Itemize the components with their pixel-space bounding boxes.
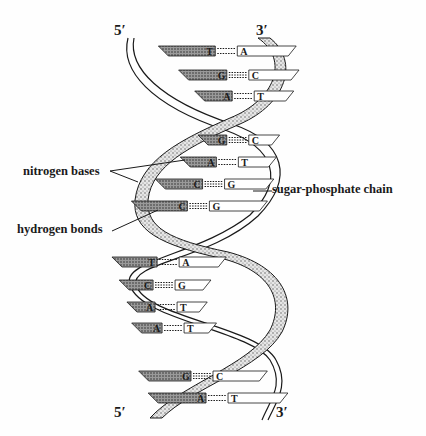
end-label-top-5prime: 5′ — [114, 22, 126, 39]
base-letter-right: T — [257, 91, 264, 102]
callout-nitrogen-bases: nitrogen bases — [23, 164, 100, 179]
base-letter-left: A — [197, 393, 205, 404]
dna-diagram: TAGCATGCATCGCGTACGATATGCAT 5′ 3′ 5′ 3′ n… — [0, 0, 426, 436]
base-letter-left: A — [207, 157, 215, 168]
base-pair: AT — [132, 323, 217, 334]
base-letter-right: T — [180, 302, 187, 313]
base-letter-right: C — [252, 70, 259, 81]
base-letter-left: G — [182, 371, 190, 382]
base-pair: TA — [112, 257, 226, 268]
base-pair: AT — [195, 91, 294, 102]
base-letter-left: C — [178, 201, 185, 212]
base-pair: GC — [139, 371, 268, 382]
base-letter-left: C — [194, 179, 201, 190]
base-letter-left: T — [206, 46, 213, 57]
base-pair: TA — [158, 46, 296, 57]
base-letter-left: G — [218, 70, 226, 81]
base-pair: AT — [127, 302, 207, 313]
base-letter-right: G — [228, 179, 236, 190]
base-letter-left: A — [146, 302, 154, 313]
base-letter-left: A — [223, 91, 231, 102]
base-pair: GC — [179, 70, 299, 81]
base-letter-right: C — [216, 371, 223, 382]
base-pair: AT — [180, 157, 276, 168]
end-label-bottom-3prime: 3′ — [276, 404, 288, 421]
end-label-top-3prime: 3′ — [256, 22, 268, 39]
base-letter-left: T — [148, 257, 155, 268]
base-letter-right: A — [182, 257, 190, 268]
base-letter-right: T — [231, 393, 238, 404]
base-pair: AT — [148, 393, 288, 404]
base-letter-right: G — [212, 201, 220, 212]
end-label-bottom-5prime: 5′ — [114, 404, 126, 421]
callout-sugar-phosphate-chain: sugar-phosphate chain — [272, 182, 393, 197]
base-letter-right: G — [178, 280, 186, 291]
base-pair: CG — [131, 201, 267, 212]
base-letter-left: A — [153, 323, 161, 334]
base-pair: CG — [119, 280, 211, 291]
base-letter-left: C — [144, 280, 151, 291]
base-letter-left: G — [218, 135, 226, 146]
base-pairs: TAGCATGCATCGCGTACGATATGCAT — [112, 46, 299, 404]
base-letter-right: T — [187, 323, 194, 334]
double-helix-illustration: TAGCATGCATCGCGTACGATATGCAT — [0, 0, 426, 436]
base-pair: CG — [155, 179, 274, 190]
callout-hydrogen-bonds: hydrogen bonds — [17, 222, 103, 237]
base-letter-right: C — [252, 135, 259, 146]
base-letter-right: T — [241, 157, 248, 168]
base-letter-right: A — [240, 46, 248, 57]
